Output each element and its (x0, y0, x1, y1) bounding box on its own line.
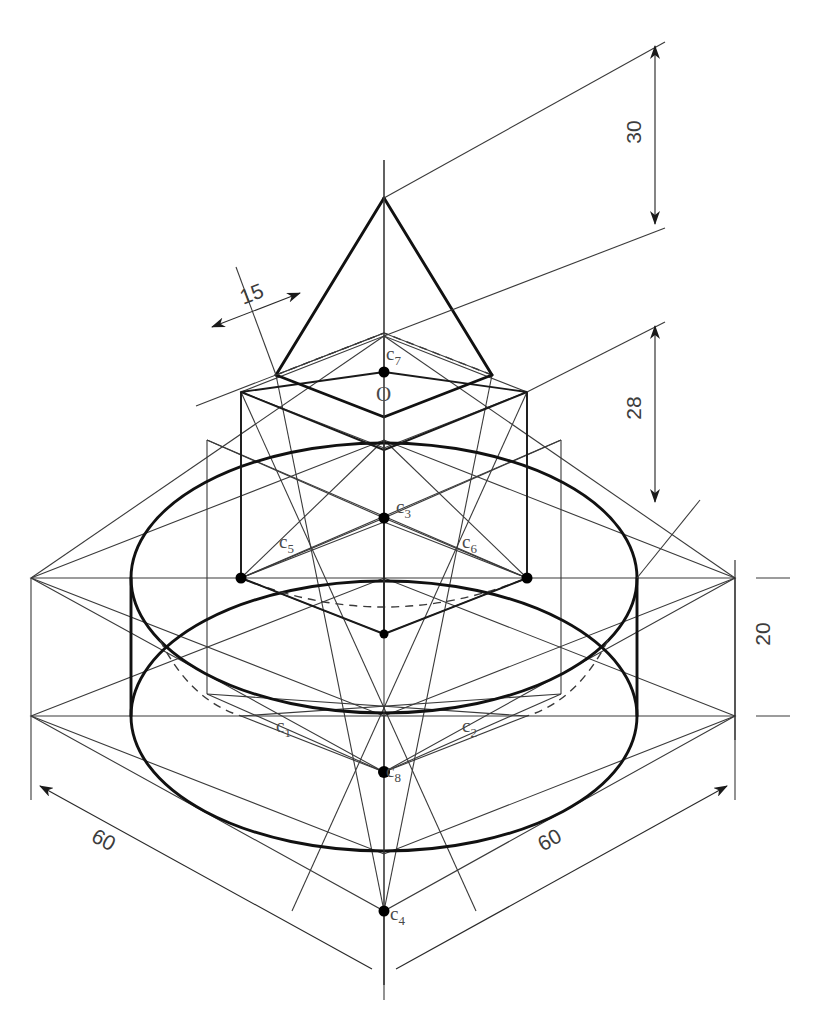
dimension-28 (527, 322, 700, 578)
label-c8: c8 (386, 760, 401, 786)
front-corner-construction (31, 578, 735, 985)
dimension-30 (384, 42, 665, 336)
technical-drawing-canvas: c7 O c3 c5 c6 c1 c2 c8 c4 30 28 20 15 60… (0, 0, 823, 1030)
label-c1: c1 (276, 715, 291, 741)
dimension-60-left (31, 716, 384, 985)
label-c2: c2 (462, 715, 477, 741)
label-c5: c5 (279, 531, 294, 557)
label-c7: c7 (386, 343, 401, 369)
dimension-20 (735, 560, 790, 740)
dimension-60-right (396, 716, 735, 969)
label-c6: c6 (462, 531, 477, 557)
construction-bounding-box (31, 440, 735, 854)
isometric-drawing-svg (0, 0, 823, 1030)
label-c4: c4 (390, 903, 405, 929)
label-c3: c3 (396, 496, 411, 522)
label-o: O (376, 382, 391, 407)
dimension-text-30: 30 (622, 120, 646, 143)
long-construction-diagonals (31, 336, 735, 911)
dimension-text-28: 28 (622, 396, 646, 419)
dimension-text-20: 20 (751, 622, 775, 645)
